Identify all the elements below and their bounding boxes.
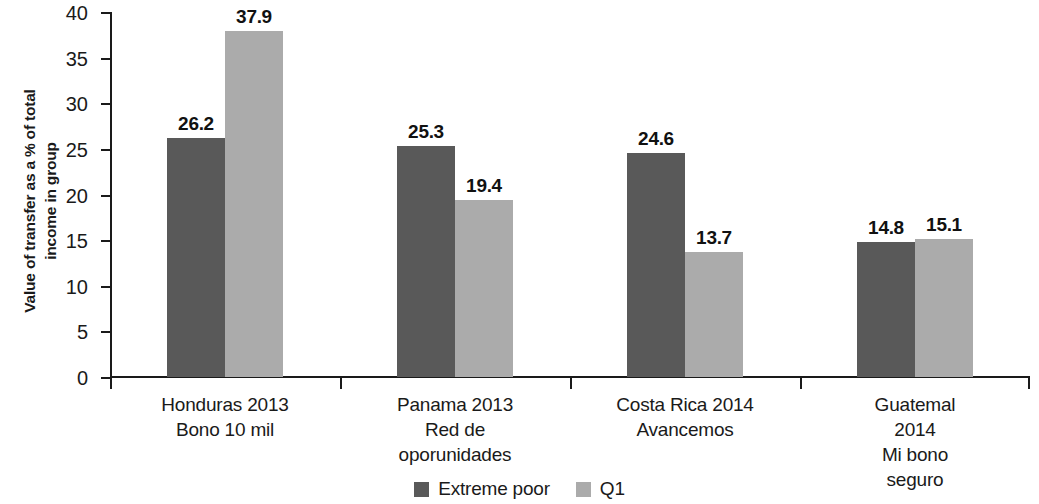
- bar-value-label: 13.7: [696, 227, 732, 249]
- y-tick: 30: [101, 103, 110, 105]
- x-axis-group-tick: [110, 377, 112, 389]
- bar-value-label: 24.6: [638, 128, 674, 150]
- y-tick-label: 40: [66, 2, 88, 25]
- chart-legend: Extreme poorQ1: [0, 478, 1039, 500]
- bar: [225, 31, 283, 377]
- y-tick: 5: [101, 331, 110, 333]
- legend-label: Extreme poor: [438, 478, 550, 500]
- y-tick-label: 20: [66, 184, 88, 207]
- bar-value-label: 25.3: [408, 121, 444, 143]
- bar: [857, 242, 915, 377]
- y-axis-title: Value of transfer as a % of total income…: [19, 11, 61, 391]
- legend-label: Q1: [600, 478, 625, 500]
- y-tick-label: 35: [66, 47, 88, 70]
- bar: [167, 138, 225, 377]
- y-tick: 20: [101, 195, 110, 197]
- legend-swatch-icon: [576, 482, 591, 497]
- y-tick-label: 10: [66, 275, 88, 298]
- y-tick-label: 30: [66, 93, 88, 116]
- bar: [455, 200, 513, 377]
- y-tick: 15: [101, 240, 110, 242]
- bar: [685, 252, 743, 377]
- bar: [397, 146, 455, 377]
- bar-value-label: 14.8: [868, 217, 904, 239]
- bar-value-label: 19.4: [466, 175, 502, 197]
- y-axis-line: [110, 12, 112, 378]
- bar-chart: Value of transfer as a % of total income…: [0, 0, 1039, 504]
- plot-area: 0510152025303540 26.237.925.319.424.613.…: [110, 12, 1030, 377]
- y-tick-label: 0: [77, 367, 88, 390]
- y-tick: 10: [101, 286, 110, 288]
- legend-item: Extreme poor: [414, 478, 550, 500]
- y-tick: 0: [101, 377, 110, 379]
- legend-swatch-icon: [414, 482, 429, 497]
- bar: [915, 239, 973, 377]
- x-axis-group-tick: [1028, 377, 1030, 389]
- bar-value-label: 37.9: [236, 6, 272, 28]
- x-axis-category-label: Honduras 2013 Bono 10 mil: [161, 392, 288, 442]
- y-tick: 40: [101, 12, 110, 14]
- y-tick-label: 5: [77, 321, 88, 344]
- x-axis-category-label: Costa Rica 2014 Avancemos: [616, 392, 753, 442]
- legend-item: Q1: [576, 478, 625, 500]
- x-axis-group-tick: [570, 377, 572, 389]
- bar: [627, 153, 685, 377]
- x-axis-group-tick: [800, 377, 802, 389]
- y-tick: 25: [101, 149, 110, 151]
- y-tick: 35: [101, 58, 110, 60]
- x-axis-category-label: Guatemal 2014 Mi bono seguro: [853, 392, 977, 492]
- y-tick-label: 15: [66, 230, 88, 253]
- y-tick-label: 25: [66, 138, 88, 161]
- bar-value-label: 15.1: [926, 214, 962, 236]
- x-axis-category-label: Panama 2013 Red de oporunidades: [397, 392, 513, 467]
- x-axis-group-tick: [340, 377, 342, 389]
- bar-value-label: 26.2: [178, 113, 214, 135]
